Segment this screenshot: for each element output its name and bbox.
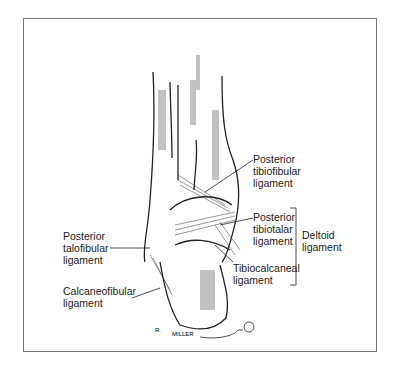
ankle-illustration: R. MILLER [0,0,397,369]
label-posterior-tibiotalar: Posterior tibiotalar ligament [253,211,295,247]
label-deltoid: Deltoid ligament [302,229,342,253]
label-posterior-tibiofibular: Posterior tibiofibular ligament [253,153,301,189]
artist-signature: R. [155,327,161,333]
label-calcaneofibular: Calcaneofibular ligament [63,285,136,309]
label-posterior-talofibular: Posterior talofibular ligament [63,230,109,266]
label-tibiocalcaneal: Tibiocalcaneal ligament [233,262,300,286]
artist-signature-name: MILLER [172,331,194,337]
